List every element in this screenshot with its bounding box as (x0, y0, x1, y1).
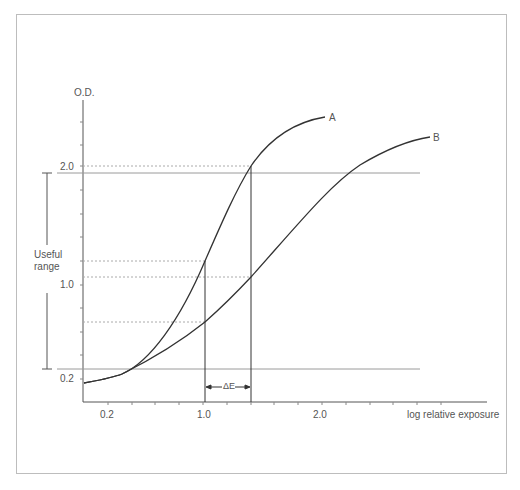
x-axis-title: log relative exposure (407, 410, 499, 420)
x-tick-label-2: 2.0 (313, 410, 327, 420)
curve-a-label: A (329, 113, 336, 123)
curve-b-label: B (433, 133, 440, 143)
y-tick-label-02: 0.2 (60, 374, 74, 384)
y-tick-label-2: 2.0 (60, 162, 74, 172)
curve-b (84, 137, 430, 383)
useful-range-label-line1: Useful (34, 250, 62, 260)
delta-e-label: ΔE (223, 382, 235, 391)
y-tick-label-1: 1.0 (60, 280, 74, 290)
x-tick-label-1: 1.0 (197, 410, 211, 420)
y-axis-title: O.D. (74, 88, 95, 98)
dotted-guides (83, 166, 251, 322)
useful-range-label-line2: range (34, 262, 60, 272)
x-tick-label-02: 0.2 (100, 410, 114, 420)
